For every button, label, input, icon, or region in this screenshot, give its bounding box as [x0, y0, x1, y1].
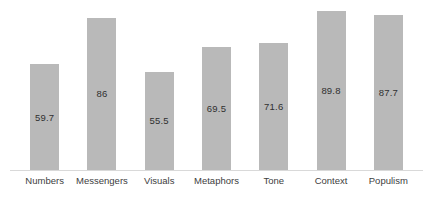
category-label: Metaphors	[188, 175, 245, 186]
data-label: 71.6	[264, 101, 283, 112]
data-label: 69.5	[207, 103, 226, 114]
bar-column: 59.7	[16, 0, 73, 170]
plot-area: 59.78655.569.571.689.887.7	[16, 0, 417, 170]
category-label: Tone	[245, 175, 302, 186]
category-axis: NumbersMessengersVisualsMetaphorsToneCon…	[16, 175, 417, 186]
bar-column: 89.8	[302, 0, 359, 170]
bar-column: 69.5	[188, 0, 245, 170]
bar-column: 55.5	[131, 0, 188, 170]
bar-column: 87.7	[360, 0, 417, 170]
bar-populism: 87.7	[374, 15, 403, 170]
data-label: 87.7	[379, 87, 398, 98]
bar-chart: 59.78655.569.571.689.887.7 NumbersMessen…	[0, 0, 432, 198]
data-label: 89.8	[321, 85, 340, 96]
data-label: 59.7	[35, 112, 54, 123]
data-label: 55.5	[150, 115, 169, 126]
bar-metaphors: 69.5	[202, 47, 231, 170]
category-label: Context	[302, 175, 359, 186]
bar-tone: 71.6	[259, 43, 288, 170]
category-label: Messengers	[73, 175, 130, 186]
category-label: Numbers	[16, 175, 73, 186]
bar-visuals: 55.5	[145, 72, 174, 170]
bar-column: 86	[73, 0, 130, 170]
bar-context: 89.8	[317, 11, 346, 170]
data-label: 86	[96, 88, 107, 99]
bar-messengers: 86	[87, 18, 116, 170]
x-axis-line	[10, 170, 423, 171]
bar-column: 71.6	[245, 0, 302, 170]
bar-numbers: 59.7	[30, 64, 59, 170]
category-label: Populism	[360, 175, 417, 186]
category-label: Visuals	[131, 175, 188, 186]
